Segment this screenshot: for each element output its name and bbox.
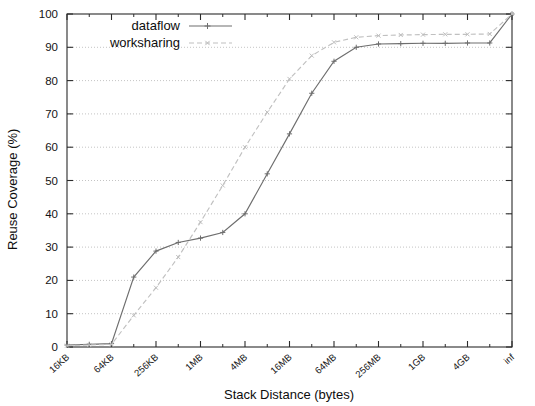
x-tick-label: 1MB [183,351,205,372]
x-tick-label: 64KB [91,351,116,375]
x-tick-label: 256MB [353,351,383,379]
x-tick-label: 16MB [268,351,294,376]
y-tick-label: 60 [45,141,58,153]
chart-figure: 0102030405060708090100 16KB64KB256KB1MB4… [0,0,535,406]
x-axis-title-text: Stack Distance (bytes) [224,387,354,402]
legend-label-dataflow: dataflow [132,18,181,33]
x-tick-label: 16KB [47,351,72,375]
y-tick-label: 90 [45,41,58,53]
y-tick-label: 0 [52,341,58,353]
legend-label-worksharing: worksharing [109,35,180,50]
y-tick-label: 100 [39,8,58,20]
x-tick-label: 4MB [227,351,249,372]
y-tick-label: 10 [45,308,58,320]
x-tick-label: inf [502,351,517,366]
x-tick-label: 64MB [313,351,339,376]
x-tick-label: 1GB [406,351,427,372]
x-axis-title: Stack Distance (bytes) [224,387,354,402]
chart-svg: 0102030405060708090100 16KB64KB256KB1MB4… [0,0,535,406]
x-axis-tick-labels: 16KB64KB256KB1MB4MB16MB64MB256MB1GB4GBin… [47,351,517,380]
y-tick-label: 40 [45,208,58,220]
y-tick-label: 20 [45,274,58,286]
y-tick-label: 50 [45,175,58,187]
y-axis-title-text: Reuse Coverage (%) [5,129,20,250]
y-axis-title: Reuse Coverage (%) [5,129,20,250]
y-axis-tick-labels: 0102030405060708090100 [39,8,58,353]
y-tick-label: 70 [45,108,58,120]
y-tick-label: 80 [45,75,58,87]
x-tick-label: 256KB [132,351,161,378]
y-tick-label: 30 [45,241,58,253]
x-tick-label: 4GB [450,351,471,372]
